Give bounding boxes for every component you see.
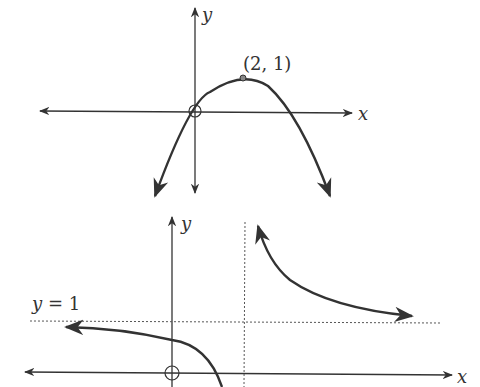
parabola-graph: y x (2, 1) (40, 4, 368, 196)
x-axis-label: x (457, 366, 467, 387)
horizontal-asymptote (30, 321, 440, 323)
parabola-curve (155, 79, 330, 196)
hyperbola-right-branch (258, 226, 412, 316)
vertical-asymptote (244, 222, 245, 387)
vertex-label: (2, 1) (243, 53, 291, 74)
hyperbola-graph: y x y = 1 (25, 213, 467, 387)
hyperbola-left-branch (66, 327, 222, 387)
x-axis (40, 111, 352, 113)
asymptote-label: y = 1 (31, 293, 80, 314)
x-axis (25, 372, 452, 375)
y-axis-label: y (201, 4, 213, 25)
vertex-point (240, 75, 246, 81)
x-axis-label: x (358, 103, 368, 124)
graphs-figure: y x (2, 1) y x y = 1 (0, 0, 480, 387)
y-axis-label: y (180, 213, 192, 234)
